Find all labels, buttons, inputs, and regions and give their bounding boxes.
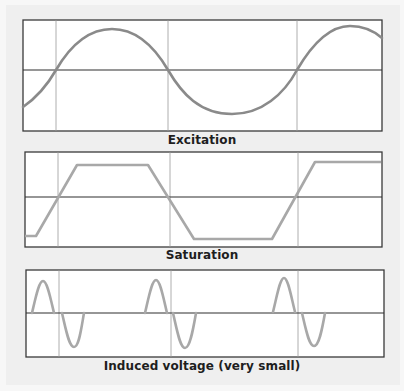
induced-voltage-panel <box>26 270 384 357</box>
induced-voltage-label: Induced voltage (very small) <box>0 359 404 373</box>
saturation-panel <box>25 152 382 247</box>
waveform-figure <box>0 0 404 391</box>
saturation-label: Saturation <box>0 248 404 262</box>
excitation-frame <box>23 20 382 131</box>
excitation-panel <box>23 20 382 131</box>
excitation-label: Excitation <box>0 133 404 147</box>
